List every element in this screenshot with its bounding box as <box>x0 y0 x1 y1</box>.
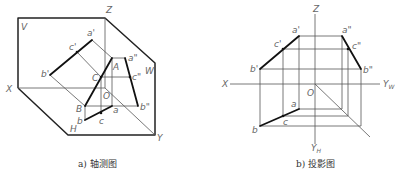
label-B: B <box>76 104 82 114</box>
label-a: a <box>113 105 119 115</box>
label-o: O <box>307 88 314 98</box>
label-h: H <box>70 124 77 134</box>
label-c: c <box>283 117 288 127</box>
label-z: Z <box>105 5 113 15</box>
projector-a-prime <box>92 40 112 58</box>
projector-b-prime <box>50 75 85 106</box>
label-c-prime: c' <box>274 39 281 49</box>
label-c-dbl: c" <box>352 41 361 51</box>
label-c: c <box>99 116 104 126</box>
label-b-dbl: b" <box>140 102 150 112</box>
label-A: A <box>112 62 119 72</box>
label-x: X <box>221 79 229 89</box>
projection-h <box>260 109 299 126</box>
drawing-canvas: V Z W X H Y O a' c' b' a" c" b" A C B b … <box>0 0 403 178</box>
label-x: X <box>5 84 13 94</box>
caption-b: b) 投影图 <box>296 158 335 169</box>
label-C: C <box>92 73 99 83</box>
label-v: V <box>21 22 28 32</box>
label-a: a <box>291 99 297 109</box>
label-c-prime: c' <box>69 42 76 52</box>
label-b-prime: b' <box>250 64 258 74</box>
label-y: Y <box>157 133 164 143</box>
figure-axonometric: V Z W X H Y O a' c' b' a" c" b" A C B b … <box>5 5 164 169</box>
diagonal-45 <box>315 84 370 137</box>
figure-projection: Z X O YW YH a' c' b' a" c" b" a c b b) 投… <box>221 4 396 169</box>
label-a-prime: a' <box>292 25 300 35</box>
projection-w <box>125 58 138 106</box>
label-b: b <box>252 125 258 135</box>
label-yw: YW <box>383 79 396 90</box>
caption-a: a) 轴测图 <box>78 158 117 169</box>
label-w: W <box>145 66 155 76</box>
label-z: Z <box>312 4 320 14</box>
label-b: b <box>77 116 83 126</box>
label-a-dbl: a" <box>342 25 352 35</box>
label-b-prime: b' <box>41 69 49 79</box>
label-a-dbl: a" <box>128 53 138 63</box>
label-o: O <box>103 91 110 101</box>
label-yh: YH <box>311 143 322 154</box>
label-c-dbl: c" <box>132 72 141 82</box>
label-b-dbl: b" <box>363 65 373 75</box>
label-a-prime: a' <box>87 28 95 38</box>
